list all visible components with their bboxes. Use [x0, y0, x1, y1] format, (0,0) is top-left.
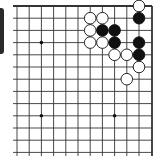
- black-stone: [133, 49, 145, 61]
- black-stone: [133, 12, 145, 24]
- black-stone: [109, 37, 121, 49]
- white-stone: [121, 49, 133, 61]
- black-stone: [133, 37, 145, 49]
- white-stone: [97, 37, 109, 49]
- white-stone: [121, 73, 133, 85]
- white-stone: [109, 49, 121, 61]
- black-stone: [97, 25, 109, 37]
- white-stone: [84, 12, 96, 24]
- star-point: [40, 41, 44, 45]
- white-stone: [84, 25, 96, 37]
- white-stone: [97, 12, 109, 24]
- star-point: [113, 114, 117, 118]
- star-point: [40, 114, 44, 118]
- white-stone: [84, 37, 96, 49]
- white-stone: [133, 61, 145, 73]
- go-board: [0, 0, 157, 156]
- black-stone: [109, 25, 121, 37]
- white-stone: [133, 0, 145, 12]
